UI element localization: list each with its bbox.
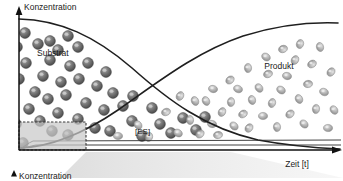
enzyme-kinetics-figure: Konzentration Zeit [t] Substrat Produkt … [0,0,343,181]
substrate-particle-highlight [58,79,62,82]
product-particle-highlight [301,122,304,124]
product-particle-highlight [240,112,243,114]
product-particle-highlight [215,133,218,135]
substrate-particle [30,87,41,98]
substrate-particle-highlight [107,128,111,131]
substrate-particle-highlight [23,60,27,63]
substrate-particle [101,67,112,78]
product-particle-highlight [265,72,268,74]
substrate-particle-highlight [110,90,114,93]
substrate-particle [20,28,31,39]
substrate-particle [73,42,84,53]
substrate-particle-highlight [26,106,30,109]
substrate-particle-highlight [94,83,98,86]
substrate-particle-highlight [180,115,184,118]
product-particle-highlight [297,42,300,44]
product-particle-highlight [331,108,334,110]
substrate-particle-highlight [193,127,197,130]
substrate-particle-highlight [101,107,105,110]
product-particle-highlight [284,74,287,76]
substrate-particle [53,108,64,119]
substrate-particle-highlight [67,63,71,66]
product-particle-highlight [219,110,222,112]
substrate-label: Substrat [37,48,69,58]
substrate-particle [108,88,119,99]
substrate-particle [56,77,67,88]
product-particle-highlight [210,87,213,89]
y-axis-label: Konzentration [24,2,77,12]
substrate-particle-highlight [85,60,89,63]
substrate-particle-highlight [47,38,51,41]
substrate-particle-highlight [32,89,36,92]
product-particle [323,124,332,132]
substrate-particle-highlight [83,100,87,103]
product-particle-highlight [192,99,195,101]
product-particle-highlight [325,126,328,128]
substrate-particle-highlight [65,33,69,36]
product-particle-highlight [256,86,259,88]
es-complex-label: [ES] [135,127,150,136]
product-particle-highlight [313,107,316,109]
product-particle-highlight [280,47,283,49]
substrate-particle-highlight [63,92,67,95]
substrate-particle-highlight [75,116,79,119]
product-particle-highlight [163,110,166,112]
product-particle-highlight [321,90,324,92]
product-label: Produkt [264,61,294,71]
product-particle-highlight [115,134,118,136]
product-particle-highlight [187,118,190,120]
substrate-particle-highlight [45,96,49,99]
substrate-particle-highlight [103,69,107,72]
product-particle-highlight [228,100,231,102]
substrate-particle-highlight [168,130,172,133]
product-particle-highlight [309,62,312,64]
bottom-y-axis-label: Konzentration [19,171,72,181]
substrate-particle [43,94,54,105]
product-particle-highlight [292,58,295,60]
substrate-particle [61,90,72,101]
substrate-particle [38,71,49,82]
substrate-particle-highlight [120,103,124,106]
product-particle-highlight [260,114,263,116]
substrate-particle [92,81,103,92]
substrate-particle-highlight [129,118,133,121]
substrate-particle [45,36,56,47]
product-particle [258,112,267,119]
substrate-particle-highlight [22,30,26,33]
product-particle-highlight [135,123,138,125]
x-axis-label: Zeit [t] [285,159,309,169]
substrate-particle [155,119,166,130]
product-particle-highlight [287,112,290,114]
product-particle [113,132,122,139]
product-particle-highlight [245,66,248,68]
substrate-particle-highlight [130,93,134,96]
product-particle-highlight [203,99,206,101]
product-particle-highlight [175,131,178,133]
substrate-particle [147,103,158,114]
product-particle-highlight [305,82,308,84]
product-particle-highlight [317,45,320,47]
product-particle-highlight [235,87,238,89]
substrate-particle [24,104,35,115]
substrate-particle [21,58,32,69]
product-particle-highlight [246,126,249,128]
substrate-particle [74,74,85,85]
product-particle-highlight [328,70,331,72]
substrate-particle-highlight [55,110,59,113]
substrate-particle [81,98,92,109]
substrate-particle-highlight [157,121,161,124]
substrate-particle-highlight [35,41,39,44]
product-particle-highlight [269,101,272,103]
substrate-particle-highlight [76,76,80,79]
product-particle-highlight [231,124,234,126]
substrate-particle [65,61,76,72]
zoom-inset-fill [19,122,86,150]
substrate-particle [99,105,110,116]
product-particle-highlight [278,88,281,90]
product-particle [244,63,252,73]
substrate-particle-highlight [75,44,79,47]
substrate-particle-highlight [149,105,153,108]
substrate-particle [63,31,74,42]
product-particle-highlight [274,125,277,127]
product-particle-highlight [249,98,252,100]
